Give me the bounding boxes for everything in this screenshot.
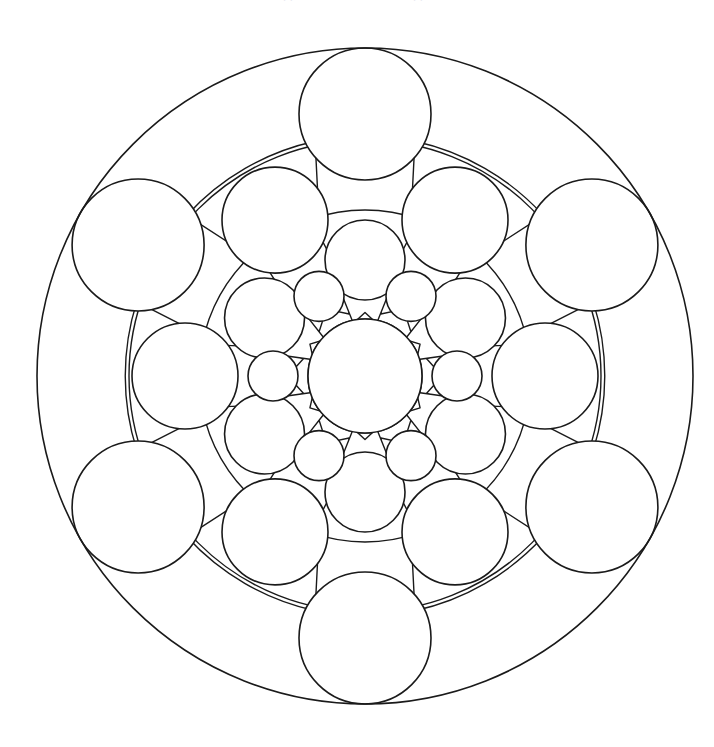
petal-circle-second-petal-ring-3 [222, 479, 328, 585]
petal-circle-outer-petal-ring-4 [72, 441, 204, 573]
petal-circle-outer-petal-ring-5 [72, 179, 204, 311]
petal-circle-outer-petal-ring-3 [299, 572, 431, 704]
petal-circle-third-petal-ring-2 [425, 394, 505, 474]
petal-circle-third-petal-ring-5 [225, 278, 305, 358]
petal-circle-third-petal-ring-1 [425, 278, 505, 358]
illustration-canvas: . . . . [0, 0, 714, 747]
petal-circle-inner-petal-ring-0 [386, 271, 436, 321]
petal-circle-second-petal-ring-5 [222, 167, 328, 273]
petal-circle-second-petal-ring-4 [132, 323, 238, 429]
petal-circle-second-petal-ring-2 [402, 479, 508, 585]
petal-circle-outer-petal-ring-2 [526, 441, 658, 573]
petal-circle-outer-petal-ring-0 [299, 48, 431, 180]
center-layer [308, 319, 422, 433]
petal-circle-inner-petal-ring-4 [248, 351, 298, 401]
petal-circle-third-petal-ring-4 [225, 394, 305, 474]
petal-circle-second-petal-ring-1 [492, 323, 598, 429]
petal-circle-outer-petal-ring-1 [526, 179, 658, 311]
center-circle [308, 319, 422, 433]
petal-circle-inner-petal-ring-2 [386, 431, 436, 481]
petal-circle-inner-petal-ring-1 [432, 351, 482, 401]
petal-circle-inner-petal-ring-3 [294, 431, 344, 481]
petal-circle-inner-petal-ring-5 [294, 271, 344, 321]
petal-circle-second-petal-ring-0 [402, 167, 508, 273]
mandala-drawing [0, 0, 714, 747]
